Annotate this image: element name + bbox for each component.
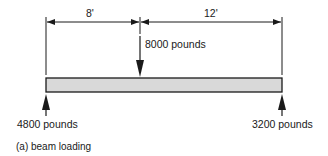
- beam: [46, 78, 282, 92]
- right-reaction-label: 3200 pounds: [252, 119, 313, 130]
- right-reaction-arrow-icon: [278, 94, 286, 116]
- applied-load-label: 8000 pounds: [145, 39, 206, 50]
- beam-diagram-graphic: [0, 0, 328, 156]
- dimension-label-12ft: 12': [204, 8, 218, 19]
- left-reaction-label: 4800 pounds: [17, 119, 78, 130]
- beam-loading-diagram: 8' 12' 8000 pounds 4800 pounds 3200 poun…: [0, 0, 328, 156]
- left-reaction-arrow-icon: [42, 94, 50, 116]
- dimension-label-8ft: 8': [86, 8, 94, 19]
- figure-caption: (a) beam loading: [16, 142, 91, 152]
- applied-load-arrow-icon: [136, 36, 144, 77]
